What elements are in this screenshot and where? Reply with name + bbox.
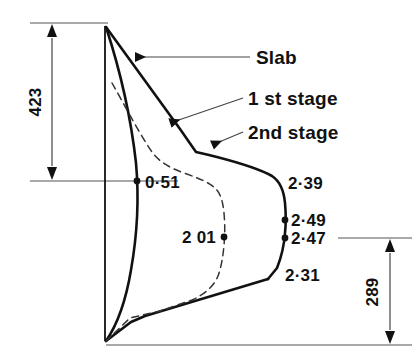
dimension-289-arrow-down bbox=[385, 331, 395, 344]
value-2-49: 2·49 bbox=[282, 211, 326, 230]
value-2-47-marker bbox=[282, 235, 289, 242]
value-2-31-label: 2·31 bbox=[285, 266, 320, 285]
value-2-31: 2·31 bbox=[285, 266, 320, 285]
callout-second-stage: 2nd stage bbox=[212, 122, 339, 145]
value-2-39-label: 2·39 bbox=[288, 174, 323, 193]
value-2-01-marker bbox=[221, 234, 228, 241]
dimension-423: 423 bbox=[26, 23, 178, 181]
value-2-01: 2 01 bbox=[182, 228, 227, 247]
second-stage-leader-line bbox=[212, 132, 243, 145]
second-stage-label: 2nd stage bbox=[248, 122, 339, 143]
first-stage-leader-line bbox=[170, 98, 243, 123]
callout-first-stage: 1 st stage bbox=[170, 88, 338, 123]
second-stage-profile bbox=[106, 27, 137, 341]
value-2-47-label: 2·47 bbox=[291, 229, 326, 248]
dimension-423-value: 423 bbox=[26, 88, 45, 117]
value-2-49-marker bbox=[282, 217, 289, 224]
dimension-289-value: 289 bbox=[363, 278, 382, 307]
diagram-canvas: 423 Slab 1 st stage 2nd stage bbox=[0, 0, 416, 364]
value-0-51-marker bbox=[134, 178, 141, 185]
value-2-01-label: 2 01 bbox=[182, 228, 216, 247]
value-0-51: 0·51 bbox=[134, 173, 180, 192]
slab-label: Slab bbox=[256, 47, 297, 68]
value-2-49-label: 2·49 bbox=[291, 211, 326, 230]
dimension-289: 289 bbox=[106, 238, 412, 345]
second-stage-lower-branch bbox=[106, 279, 268, 341]
value-0-51-label: 0·51 bbox=[145, 173, 180, 192]
value-2-47: 2·47 bbox=[282, 229, 326, 248]
callout-slab: Slab bbox=[135, 47, 297, 68]
dimension-289-arrow-up bbox=[385, 239, 395, 252]
figure-container: 423 Slab 1 st stage 2nd stage bbox=[0, 0, 416, 364]
first-stage-label: 1 st stage bbox=[248, 88, 338, 109]
value-2-39: 2·39 bbox=[288, 174, 323, 193]
dimension-423-arrow-up bbox=[47, 24, 57, 37]
dimension-423-arrow-down bbox=[47, 167, 57, 180]
